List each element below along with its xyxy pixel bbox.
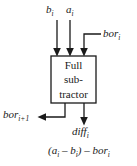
input-label-a-base: a	[66, 3, 72, 15]
wire-difference-out	[80, 103, 88, 126]
expression-open: (a	[48, 144, 57, 156]
block-label: Full sub- tractor	[51, 56, 96, 103]
expression-sub-bor: i	[108, 150, 110, 159]
input-label-borrow-in: bori	[103, 28, 120, 39]
output-label-difference-sub: i	[87, 131, 89, 140]
output-label-difference: diffi	[72, 126, 89, 137]
output-label-borrow-out-sub: i+1	[18, 114, 29, 123]
block-label-line2: sub-	[64, 72, 83, 86]
block-label-line3: tractor	[59, 87, 88, 101]
input-label-b: bi	[46, 4, 54, 15]
output-label-borrow-out-base: bor	[3, 108, 18, 120]
output-label-borrow-out: bori+1	[3, 109, 29, 120]
input-label-a-sub: i	[72, 9, 74, 18]
expression-mid: – b	[59, 144, 76, 156]
wire-borrow-out	[38, 103, 66, 121]
input-label-a: ai	[66, 4, 74, 15]
expression-sub-b: i	[76, 150, 78, 159]
wire-a-input	[66, 20, 74, 57]
expression-sub-a: i	[57, 150, 59, 159]
input-label-borrow-in-base: bor	[103, 27, 118, 39]
output-expression: (ai – bi) – bori	[48, 145, 110, 156]
full-subtractor-diagram: Full sub- tractor bi ai bori bori+1 diff…	[0, 0, 137, 166]
input-label-b-sub: i	[52, 9, 54, 18]
block-label-line1: Full	[65, 58, 83, 72]
input-label-b-base: b	[46, 3, 52, 15]
wire-b-input	[53, 20, 61, 57]
output-label-difference-base: diff	[72, 125, 87, 137]
wire-borrow-in	[80, 34, 101, 57]
expression-tail: ) – bor	[78, 144, 108, 156]
